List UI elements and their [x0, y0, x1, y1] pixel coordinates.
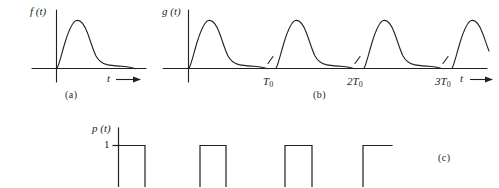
panel-c-caption: (c)	[438, 153, 451, 163]
panel-b-pulse-2	[276, 20, 355, 68]
tick-3T0-sub: 0	[447, 80, 451, 89]
tick-T0-sub: 0	[269, 80, 273, 89]
panel-b-ticklabel-3T0: 3T0	[435, 76, 451, 89]
panel-b-tick-T0	[268, 57, 273, 64]
tick-2T0-base: 2T	[347, 75, 359, 87]
panel-c-amplitude-label: 1	[104, 139, 110, 150]
panel-b-ticklabel-T0: T0	[263, 76, 273, 89]
tick-3T0-base: 3T	[435, 75, 447, 87]
panel-b-pulse-1	[189, 20, 268, 68]
panel-a-y-label: f (t)	[30, 6, 46, 17]
panel-c-y-label: p (t)	[92, 123, 111, 134]
panel-b-y-label: g (t)	[162, 6, 181, 17]
panel-a-x-label: t	[107, 73, 110, 84]
panel-a-caption: (a)	[65, 90, 78, 100]
panel-b-x-label: t	[460, 73, 463, 84]
panel-b-pulse-4	[452, 20, 489, 68]
panel-a-curve	[57, 20, 136, 68]
panel-b-x-arrow-icon	[470, 77, 493, 83]
panel-b-ticklabel-2T0: 2T0	[347, 76, 363, 89]
signal-figure: f (t) t (a) g (t) t (b) T0 2T0 3T0 p (t)…	[0, 0, 499, 187]
panel-b-caption: (b)	[313, 90, 326, 100]
panel-b-pulse-3	[364, 20, 443, 68]
tick-2T0-sub: 0	[359, 80, 363, 89]
panel-b-tick-3T0	[443, 57, 448, 64]
panel-b-tick-2T0	[355, 57, 360, 64]
panel-c-pulse-4	[363, 146, 392, 188]
panel-c-pulse-1	[119, 146, 145, 188]
panel-c-pulse-3	[285, 146, 312, 188]
panel-a-axes	[32, 10, 146, 82]
panel-a-x-arrow-icon	[116, 77, 141, 83]
panel-c-pulse-2	[200, 146, 226, 188]
